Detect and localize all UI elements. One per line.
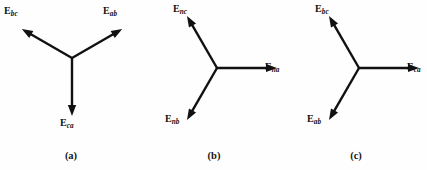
panel-caption-b: (b) [143,150,285,161]
phasor-vector-e-nb [187,68,217,120]
phasor-panel-a: (a) EbcEabEca [0,0,142,170]
arrowhead-icon [68,105,76,116]
vector-label-subscript: ca [414,66,421,74]
vector-label-e-ca: Eca [407,62,421,74]
phasor-diagram-c [285,0,427,150]
vector-label-symbol: E [103,5,110,16]
vector-label-symbol: E [60,117,67,128]
vector-label-symbol: E [4,5,11,16]
phasor-vector-e-nc [187,16,217,68]
vector-label-e-na: Ena [265,62,279,74]
panel-caption-c: (c) [285,150,427,161]
vector-label-e-ab: Eab [103,6,117,18]
vector-label-subscript: ab [110,10,117,18]
vector-label-subscript: ab [314,118,321,126]
vector-label-subscript: na [272,66,280,74]
phasor-vector-e-bc [329,16,359,68]
phasor-diagram-b [143,0,285,150]
vector-label-e-nc: Enc [173,4,187,16]
vector-label-subscript: bc [322,8,329,16]
vector-label-e-ca: Eca [60,118,74,130]
arrowhead-icon [329,108,338,120]
vector-shaft [30,34,72,59]
vector-label-subscript: ca [67,122,74,130]
phasor-panel-c: (c) EcaEbcEab [285,0,427,170]
arrowhead-icon [22,29,34,38]
vector-label-symbol: E [165,113,172,124]
phasor-vector-e-ab [72,29,122,58]
vector-label-symbol: E [315,3,322,14]
phasor-figure: (a) EbcEabEca (b) EnaEncEnb (c) EcaEbcEa… [0,0,427,170]
vector-label-e-ab: Eab [307,114,321,126]
vector-label-e-bc: Ebc [4,6,18,18]
arrowhead-icon [111,29,123,38]
phasor-panel-b: (b) EnaEncEnb [143,0,285,170]
vector-label-symbol: E [173,3,180,14]
vector-label-subscript: nc [180,8,187,16]
arrowhead-icon [187,108,196,120]
phasor-vector-e-ca [68,58,76,116]
vector-shaft [72,34,114,59]
vector-label-symbol: E [407,61,414,72]
vector-label-symbol: E [265,61,272,72]
vector-shaft [334,24,360,68]
arrowhead-icon [187,16,196,28]
panel-caption-a: (a) [0,150,142,161]
vector-shaft [192,68,218,112]
vector-shaft [192,24,218,68]
vector-label-e-nb: Enb [165,114,179,126]
phasor-vector-e-ab [329,68,359,120]
vector-label-subscript: nb [172,118,180,126]
vector-label-subscript: bc [11,10,18,18]
phasor-vector-e-bc [22,29,72,58]
vector-label-e-bc: Ebc [315,4,329,16]
vector-label-symbol: E [307,113,314,124]
arrowhead-icon [329,16,338,28]
vector-shaft [334,68,360,112]
